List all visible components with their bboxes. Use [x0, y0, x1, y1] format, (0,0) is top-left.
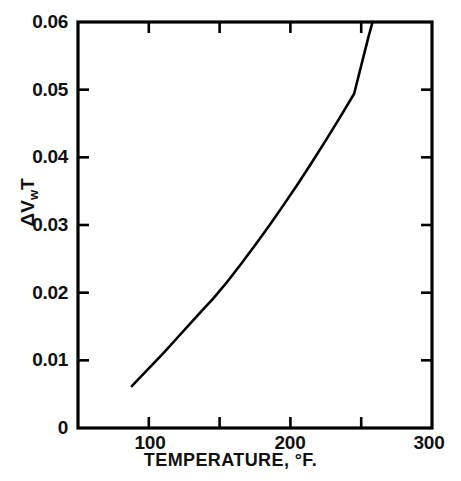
tick-marks — [78, 22, 432, 428]
y-axis-title-tail: T — [17, 178, 38, 190]
ytick-label-0.02: 0.02 — [10, 282, 68, 304]
ytick-label-0.06: 0.06 — [10, 11, 68, 33]
y-axis-title: ΔVwT — [17, 157, 42, 247]
ytick-label-0.05: 0.05 — [10, 79, 68, 101]
y-axis-title-subscript: w — [26, 190, 41, 200]
ytick-label-0: 0 — [10, 417, 68, 439]
data-curve-group — [132, 22, 373, 386]
y-axis-title-main: ΔV — [17, 200, 38, 226]
axes-box — [78, 22, 432, 428]
chart-figure: 0.06 0.05 0.04 0.03 0.02 0.01 0 100 200 … — [0, 0, 461, 481]
x-axis-title: TEMPERATURE, °F. — [0, 450, 461, 471]
data-curve — [132, 22, 373, 386]
plot-frame — [78, 22, 432, 428]
ytick-label-0.01: 0.01 — [10, 349, 68, 371]
plot-area — [0, 0, 461, 481]
